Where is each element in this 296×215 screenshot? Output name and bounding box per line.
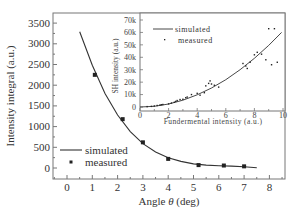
inset-measured-point: [209, 80, 210, 81]
inset-measured-point: [161, 104, 162, 105]
y-tick-label: 2500: [28, 58, 51, 70]
inset-y-tick-label: 40k: [124, 53, 136, 62]
inset-measured-point: [245, 65, 246, 66]
inset-x-tick-label: 0: [138, 111, 142, 120]
main-legend: simulated measured: [60, 144, 128, 168]
y-tick-label: 0: [45, 162, 51, 174]
inset-measured-point: [176, 100, 177, 101]
main-x-tick-labels: 012345678: [64, 181, 272, 193]
inset-legend-label-simulated: simulated: [175, 25, 211, 34]
inset-measured-point: [218, 86, 219, 87]
y-tick-label: 1500: [28, 99, 51, 111]
legend-label-measured: measured: [85, 156, 128, 168]
legend-label-simulated: simulated: [85, 144, 128, 156]
main-y-axis-title: Intensity integral (a.u.): [4, 45, 17, 146]
main-x-axis-title: Angle θ (deg): [138, 195, 199, 208]
inset-measured-point: [254, 54, 255, 55]
inset-y-tick-label: 30k: [124, 66, 136, 75]
inset-measured-point: [205, 85, 206, 86]
measured-point: [121, 117, 125, 121]
inset-y-tick-label: 70k: [124, 16, 136, 25]
inset-measured-point: [151, 106, 152, 107]
inset-plot-frame: [140, 13, 285, 111]
x-tick-label: 6: [216, 181, 222, 193]
inset-y-axis-title: SH intensity (a.u.): [111, 38, 120, 93]
inset-y-tick-label: 0: [132, 103, 136, 112]
inset-measured-point: [211, 83, 212, 84]
measured-point: [197, 163, 201, 167]
inset-measured-point: [261, 53, 262, 54]
inset-measured-point: [146, 106, 147, 107]
inset-measured-point: [162, 104, 163, 105]
measured-point: [222, 164, 226, 168]
x-tick-label: 7: [241, 181, 247, 193]
inset-measured-point: [257, 52, 258, 53]
measured-point: [166, 157, 170, 161]
inset-y-tick-label: 60k: [124, 28, 136, 37]
inset-measured-point: [197, 93, 198, 94]
inset-measured-point: [249, 62, 250, 63]
y-tick-label: 2000: [28, 79, 51, 91]
inset-measured-point: [179, 99, 180, 100]
inset-measured-point: [204, 92, 205, 93]
inset-measured-point: [242, 63, 243, 64]
x-tick-label: 0: [64, 181, 70, 193]
inset-legend-label-measured: measured: [178, 36, 213, 45]
inset-measured-point: [274, 28, 275, 29]
x-tick-label: 8: [267, 181, 273, 193]
y-tick-label: 500: [34, 141, 51, 153]
inset-measured-point: [199, 94, 200, 95]
measured-point: [93, 73, 97, 77]
inset-y-tick-label: 20k: [124, 78, 136, 87]
y-tick-label: 3000: [28, 37, 51, 49]
inset-y-tick-labels: 010k20k30k40k50k60k70k: [124, 16, 136, 112]
inset-measured-point: [154, 105, 155, 106]
inset-measured-point: [182, 99, 183, 100]
x-tick-label: 4: [165, 181, 171, 193]
inset-measured-point: [185, 97, 186, 98]
inset-measured-point: [271, 64, 272, 65]
y-tick-label: 3500: [28, 17, 51, 29]
inset-measured-point: [186, 96, 187, 97]
inset-measured-point: [208, 83, 209, 84]
inset-x-tick-label: 10: [279, 111, 287, 120]
legend-square-marker-swatch: [70, 161, 73, 164]
inset-measured-point: [175, 101, 176, 102]
inset-measured-point: [265, 59, 266, 60]
x-tick-label: 1: [90, 181, 96, 193]
inset-measured-point: [191, 94, 192, 95]
measured-point: [141, 140, 145, 144]
inset-legend-dot-swatch: [164, 39, 165, 40]
x-tick-label: 2: [115, 181, 121, 193]
measured-point: [242, 164, 246, 168]
y-tick-label: 1000: [28, 120, 51, 132]
inset-measured-point: [247, 68, 248, 69]
inset-measured-point: [277, 62, 278, 63]
main-y-tick-labels: 0500100015002000250030003500: [28, 17, 51, 174]
inset-y-tick-label: 50k: [124, 41, 136, 50]
inset-measured-point: [171, 102, 172, 103]
inset-measured-point: [168, 103, 169, 104]
inset-measured-point: [174, 102, 175, 103]
inset-measured-point: [156, 105, 157, 106]
inset-measured-point: [159, 104, 160, 105]
inset-measured-point: [268, 28, 269, 29]
inset-measured-point: [214, 85, 215, 86]
inset-x-axis-title: Fundermental intensity (a.u.): [164, 117, 263, 126]
chart-canvas: 0500100015002000250030003500 012345678 I…: [0, 0, 296, 215]
x-tick-label: 3: [140, 181, 146, 193]
inset-y-tick-label: 10k: [124, 90, 136, 99]
x-tick-label: 5: [191, 181, 197, 193]
